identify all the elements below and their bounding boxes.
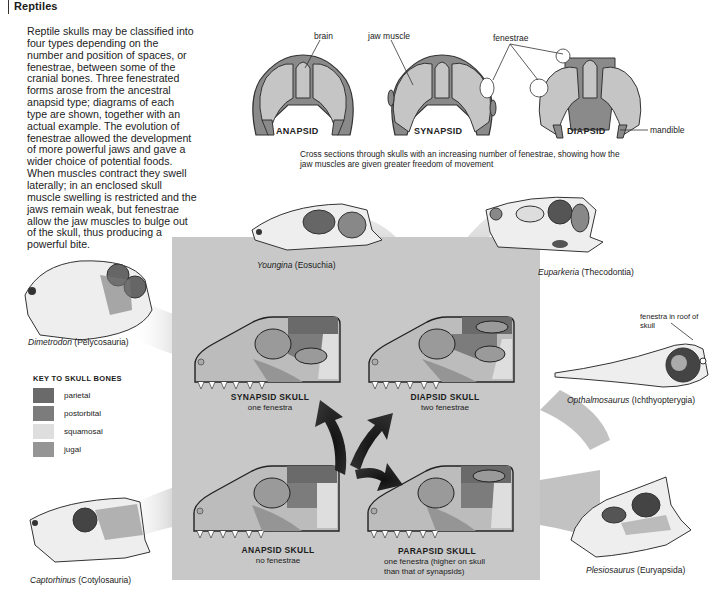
key-item-parietal: parietal [33, 388, 90, 403]
dimetrodon-skull [20, 255, 150, 345]
key-item-squamosal: squamosal [33, 424, 103, 439]
label-fenestra-in-roof: fenestra in roof of skull [640, 312, 700, 330]
key-title: KEY TO SKULL BONES [33, 374, 122, 383]
species-label-plesiosaurus: Plesiosaurus (Euryapsida) [586, 565, 685, 575]
cross-section-caption: Cross sections through skulls with an in… [300, 149, 630, 169]
cross-section-label-anapsid: ANAPSID [276, 126, 319, 136]
swatch-squamosal [33, 424, 54, 439]
leader-line-mandible [620, 129, 650, 134]
plesiosaurus-skull [566, 475, 696, 560]
anapsid-skull-title: ANAPSID SKULL [203, 545, 353, 555]
cross-section-label-diapsid: DIAPSID [567, 126, 606, 136]
species-label-dimetrodon: Dimetrodon (Pelycosauria) [28, 337, 129, 347]
cross-section-label-synapsid: SYNAPSID [414, 126, 462, 136]
parapsid-skull-subtitle: one fenestra (higher on skull [384, 557, 485, 566]
opthalmosaurus-skull [553, 335, 713, 395]
species-label-opthalmosaurus: Opthalmosaurus (Ichthyopterygia) [567, 395, 695, 405]
species-label-captorhinus: Captorhinus (Cotylosauria) [30, 575, 131, 585]
leader-lines-fenestrae [488, 42, 588, 102]
species-label-euparkeria: Euparkeria (Thecodontia) [538, 267, 634, 277]
diapsid-skull-diagram [367, 314, 517, 389]
label-mandible: mandible [650, 125, 685, 135]
key-item-postorbital: postorbital [33, 406, 101, 421]
key-item-jugal: jugal [33, 442, 81, 457]
leader-line-brain [300, 40, 330, 70]
captorhinus-skull [25, 490, 155, 565]
anapsid-skull-subtitle: no fenestrae [203, 556, 353, 565]
euparkeria-skull [478, 192, 608, 262]
parapsid-skull-title: PARAPSID SKULL [367, 546, 507, 556]
swatch-jugal [33, 442, 54, 457]
leader-line-jaw-muscle [383, 40, 423, 90]
synapsid-skull-diagram [193, 314, 343, 389]
swatch-parietal [33, 388, 54, 403]
species-label-youngina: Youngina (Eosuchia) [257, 260, 335, 270]
parapsid-skull-subtitle-2: than that of synapsids) [384, 567, 465, 576]
youngina-skull [247, 200, 387, 255]
swatch-postorbital [33, 406, 54, 421]
evolution-arrows-icon [305, 395, 405, 495]
